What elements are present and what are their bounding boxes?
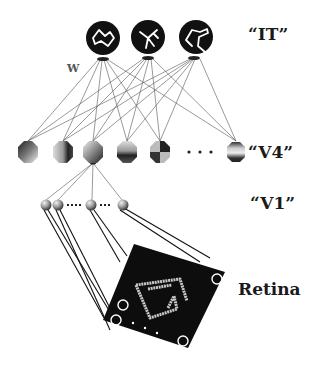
v4-unit-5 [150,141,170,163]
v4-layer-label: “V4” [248,142,293,162]
hmax-hierarchy-diagram [0,0,315,369]
v4-unit-3 [83,141,103,163]
v1-unit-2 [53,200,64,211]
it-v4-connections [28,59,236,141]
v4-ellipsis [187,150,212,153]
it-layer [86,20,213,55]
v1-ellipsis-2 [100,204,110,206]
it-unit-curved [179,20,213,54]
v1-unit-1 [41,200,52,211]
it-unit-branching [131,20,165,54]
v4-unit-4 [117,141,137,163]
v1-layer [41,200,129,211]
it-layer-label: “IT” [248,24,288,44]
retina-label: Retina [238,279,301,299]
v1-ellipsis-1 [67,204,81,206]
v4-layer [18,141,245,163]
v4-unit-1 [18,141,38,163]
v4-v1-connections [46,163,122,200]
v1-unit-3 [86,200,97,211]
retina-square [103,244,225,348]
it-unit-zigzag [86,21,120,55]
retina [103,244,225,348]
v4-unit-2 [53,141,73,163]
weights-label: W [67,62,79,75]
v1-layer-label: “V1” [250,193,295,213]
v4-unit-n [227,142,245,162]
v1-unit-4 [118,200,129,211]
